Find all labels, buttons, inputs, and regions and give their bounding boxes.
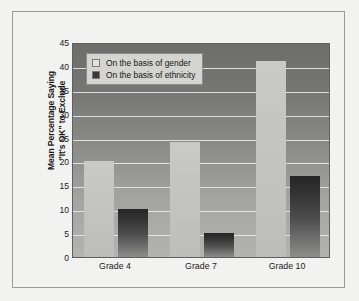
bar-grade-10-ethnicity bbox=[290, 176, 320, 257]
y-tick-10: 10 bbox=[43, 206, 69, 215]
legend-label-ethnicity: On the basis of ethnicity bbox=[106, 71, 195, 79]
y-tick-0: 0 bbox=[43, 254, 69, 263]
y-tick-25: 25 bbox=[43, 134, 69, 143]
y-axis-tick-labels: 051015202530354045 bbox=[43, 12, 69, 289]
bar-grade-7-gender bbox=[170, 142, 200, 257]
y-tick-45: 45 bbox=[43, 39, 69, 48]
bar-grade-7-ethnicity bbox=[204, 233, 234, 257]
y-tick-5: 5 bbox=[43, 230, 69, 239]
legend-label-gender: On the basis of gender bbox=[106, 59, 191, 67]
x-tick-grade-4: Grade 4 bbox=[99, 262, 131, 271]
y-tick-35: 35 bbox=[43, 86, 69, 95]
x-tick-grade-7: Grade 7 bbox=[185, 262, 217, 271]
bar-grade-10-gender bbox=[256, 61, 286, 257]
bar-group-grade-10 bbox=[256, 44, 320, 257]
x-axis-tick-labels: Grade 4Grade 7Grade 10 bbox=[72, 262, 330, 278]
legend-swatch-gender-icon bbox=[92, 59, 100, 67]
y-tick-20: 20 bbox=[43, 158, 69, 167]
x-tick-grade-10: Grade 10 bbox=[269, 262, 306, 271]
bar-grade-4-gender bbox=[84, 161, 114, 257]
y-tick-15: 15 bbox=[43, 182, 69, 191]
legend: On the basis of gender On the basis of e… bbox=[86, 53, 203, 85]
chart-frame: Mean Percentage Saying "It's OK" to Excl… bbox=[12, 11, 345, 288]
legend-item-gender: On the basis of gender bbox=[92, 57, 195, 69]
plot-area: On the basis of gender On the basis of e… bbox=[72, 43, 330, 258]
legend-item-ethnicity: On the basis of ethnicity bbox=[92, 69, 195, 81]
y-tick-40: 40 bbox=[43, 63, 69, 72]
y-tick-30: 30 bbox=[43, 110, 69, 119]
bar-grade-4-ethnicity bbox=[118, 209, 148, 257]
legend-swatch-ethnicity-icon bbox=[92, 71, 100, 79]
